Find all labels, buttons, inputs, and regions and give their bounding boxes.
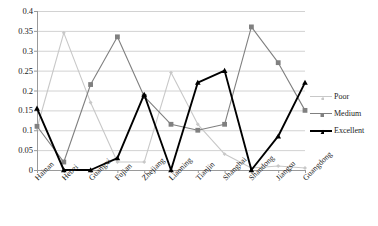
legend-marker-icon [318,128,324,134]
legend-swatch-icon [310,109,332,119]
legend-item-medium[interactable]: Medium [310,105,376,122]
x-tick-label: Shanghai [221,155,248,182]
legend-marker-icon [318,111,324,117]
x-tick-label: Guangdong [301,150,334,183]
legend-item-poor[interactable]: Poor [310,88,376,105]
line-chart: 00.050.10.150.20.250.30.350.4 HainanHebe… [0,0,378,226]
chart-legend: PoorMediumExcellent [310,88,376,139]
legend-item-excellent[interactable]: Excellent [310,122,376,139]
x-tick-label: Hainan [33,160,56,183]
legend-label: Medium [332,109,361,118]
x-tick-label: Jiangsu [274,159,297,182]
x-tick-label: Tianjin [194,160,217,183]
x-tick-label: Liaoning [167,156,194,183]
legend-label: Poor [332,92,349,101]
x-tick-label: Hebei [60,162,80,182]
legend-marker-icon [318,94,324,100]
legend-label: Excellent [332,126,364,135]
x-tick-label: Zhejiang [140,156,166,182]
x-tick-label: Shandong [247,153,276,182]
legend-swatch-icon [310,92,332,102]
x-tick-label: Guangxi [87,157,113,183]
data-point [320,129,324,133]
data-point [321,96,324,99]
legend-swatch-icon [310,126,332,136]
x-tick-label: Fujian [113,162,134,183]
data-point [321,113,325,117]
